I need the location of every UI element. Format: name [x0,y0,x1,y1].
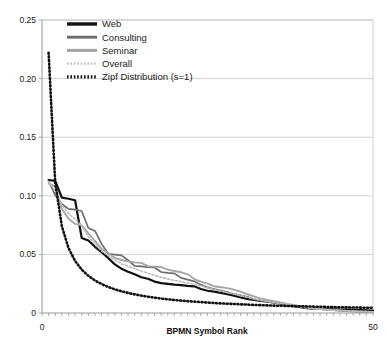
y-tick-label: 0 [31,308,36,318]
rank-frequency-line-chart: 00.050.100.150.200.25 050 WebConsultingS… [0,0,387,347]
legend-label-consulting: Consulting [102,32,147,43]
chart-background [0,0,387,347]
legend-label-web: Web [102,18,121,29]
x-tick-label: 0 [40,322,45,332]
y-tick-label: 0.20 [19,74,36,84]
y-tick-label: 0.05 [19,249,36,259]
chart-container: 00.050.100.150.200.25 050 WebConsultingS… [0,0,387,347]
x-axis-title: BPMN Symbol Rank [166,326,248,336]
y-tick-label: 0.15 [19,132,36,142]
x-tick-label: 50 [368,322,378,332]
y-tick-label: 0.10 [19,191,36,201]
legend-label-zipf-distribution-s-1: Zipf Distribution (s=1) [102,71,193,82]
y-tick-label: 0.25 [19,15,36,25]
legend-label-overall: Overall [102,58,132,69]
legend-label-seminar: Seminar [102,45,137,56]
